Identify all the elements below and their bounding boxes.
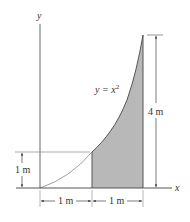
- y-axis-label: y: [36, 10, 42, 21]
- shaded-area: [92, 35, 143, 188]
- curve-segment-0-to-1: [40, 152, 92, 188]
- curve-equation-label: y = x2: [94, 83, 120, 95]
- right-height-label: 4 m: [148, 106, 164, 117]
- x-axis-label: x: [174, 182, 180, 193]
- bottom-left-width-label: 1 m: [58, 195, 74, 206]
- left-height-label: 1 m: [15, 164, 31, 175]
- area-under-curve-diagram: y x 1 m 4 m y = x2 1 m 1 m: [0, 0, 190, 222]
- bottom-right-width-label: 1 m: [109, 195, 125, 206]
